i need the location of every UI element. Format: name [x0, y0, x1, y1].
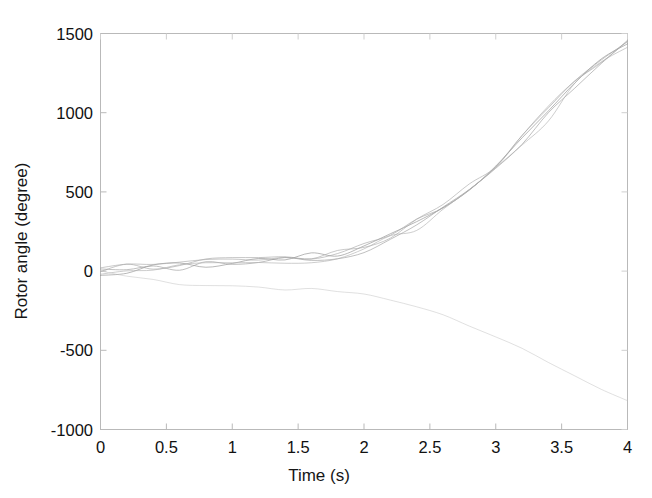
- x-tick-label: 0: [96, 438, 105, 457]
- x-tick-label: 3: [491, 438, 500, 457]
- x-tick-label: 1: [228, 438, 237, 457]
- x-tick-label: 4: [623, 438, 632, 457]
- data-series-line: [101, 40, 628, 268]
- x-axis-tick-marks: [101, 34, 628, 430]
- data-series-line: [101, 41, 628, 270]
- x-tick-label: 3.5: [550, 438, 573, 457]
- rotor-angle-line-chart: [0, 0, 652, 498]
- x-tick-label: 2.5: [418, 438, 441, 457]
- data-series-group: [101, 40, 628, 400]
- y-axis-title: Rotor angle (degree): [12, 141, 32, 341]
- x-tick-label: 2: [359, 438, 368, 457]
- x-tick-label: 1.5: [287, 438, 310, 457]
- y-tick-label: -1000: [5, 420, 93, 439]
- y-axis-tick-marks: [101, 34, 628, 430]
- plot-area-border: [101, 34, 628, 430]
- y-tick-label: 1000: [5, 103, 93, 122]
- data-series-line: [101, 271, 628, 401]
- data-series-line: [101, 42, 628, 272]
- x-tick-label: 0.5: [155, 438, 178, 457]
- x-axis-title: Time (s): [264, 466, 374, 486]
- figure-canvas: 150010005000-500-1000 00.511.522.533.54 …: [0, 0, 652, 498]
- axes-frame: [101, 34, 628, 430]
- data-series-line: [101, 47, 628, 274]
- data-series-line: [101, 44, 628, 276]
- y-tick-label: -500: [5, 341, 93, 360]
- y-tick-label: 1500: [5, 24, 93, 43]
